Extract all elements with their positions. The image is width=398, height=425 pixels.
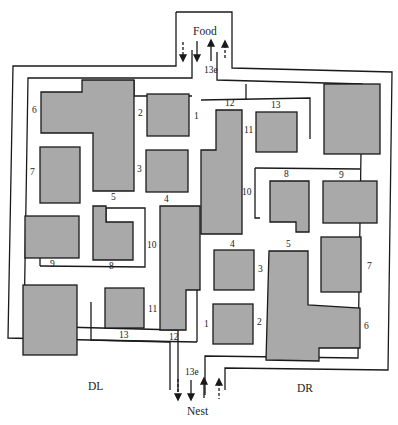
label-ll-10: 10: [147, 241, 157, 251]
entry-label-top: 13e: [204, 66, 218, 76]
label-ul-4: 4: [164, 195, 169, 205]
food-arrows: [180, 40, 228, 61]
label-lr-5: 5: [286, 240, 291, 250]
label-lr-2: 2: [257, 318, 262, 328]
nest-arrows: [175, 378, 222, 400]
region-dl-label: DL: [88, 381, 103, 393]
maze-diagram: [0, 0, 398, 425]
label-ll-13: 13: [119, 331, 129, 341]
label-lr-3: 3: [258, 265, 263, 275]
label-lr-6: 6: [364, 322, 369, 332]
entry-label-bottom: 13e: [185, 368, 199, 378]
label-ur-10: 10: [242, 188, 252, 198]
label-ur-11: 11: [244, 126, 253, 136]
label-lr-7: 7: [367, 262, 372, 272]
label-ll-12: 12: [169, 333, 179, 343]
label-ul-2: 2: [138, 109, 143, 119]
label-lr-4: 4: [230, 240, 235, 250]
food-label: Food: [193, 26, 217, 38]
label-ul-7: 7: [30, 168, 35, 178]
region-dr-label: DR: [297, 383, 313, 395]
label-ur-8: 8: [284, 170, 289, 180]
blocks: [23, 80, 380, 361]
label-ll-11: 11: [148, 305, 157, 315]
label-ll-8: 8: [109, 262, 114, 272]
label-lr-1: 1: [204, 320, 209, 330]
label-ul-3: 3: [137, 165, 142, 175]
label-ur-9: 9: [339, 171, 344, 181]
nest-label: Nest: [187, 406, 208, 418]
label-ll-9: 9: [50, 260, 55, 270]
label-ul-5: 5: [111, 193, 116, 203]
label-ul-1: 1: [194, 112, 199, 122]
label-ul-6: 6: [32, 106, 37, 116]
label-ur-13: 13: [271, 101, 281, 111]
label-ur-12: 12: [225, 99, 235, 109]
